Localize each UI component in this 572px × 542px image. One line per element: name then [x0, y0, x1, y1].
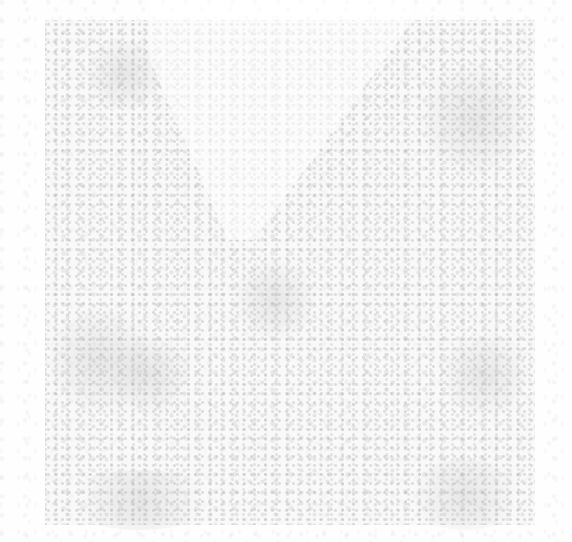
speckle-blotch [230, 260, 320, 340]
texture-canvas [0, 0, 572, 542]
speckle-blotch [110, 330, 190, 420]
speckle-blotch [420, 60, 530, 180]
speckle-blotch [440, 330, 530, 420]
speckle-blotch [400, 460, 530, 530]
speckle-blotch [60, 470, 220, 530]
